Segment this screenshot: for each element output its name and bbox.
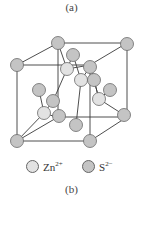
s-ion-atom xyxy=(52,37,65,50)
s-ion-atom xyxy=(88,74,101,87)
s-ion-atom xyxy=(11,135,24,148)
s-ion-atom xyxy=(70,119,83,132)
zn-ion-atom xyxy=(93,93,106,106)
s-ion-atom xyxy=(33,84,46,97)
zn-ion-swatch-icon xyxy=(26,160,39,173)
legend: Zn2+ S2− xyxy=(0,160,143,178)
caption-b: (b) xyxy=(0,183,143,195)
zn-ion-atom xyxy=(61,63,74,76)
s-ion-atom xyxy=(47,95,60,108)
atoms xyxy=(11,37,134,148)
s-ion-swatch-icon xyxy=(82,160,95,173)
s-ion-atom xyxy=(104,84,117,97)
s-ion-atom xyxy=(84,61,97,74)
zn-ion-atom xyxy=(75,74,88,87)
zn-ion-atom xyxy=(38,107,51,120)
legend-item-zn: Zn2+ xyxy=(26,160,63,173)
legend-label-s: S2− xyxy=(99,160,113,173)
s-ion-atom xyxy=(67,49,80,62)
s-ion-atom xyxy=(121,38,134,51)
s-ion-atom xyxy=(11,59,24,72)
legend-label-zn: Zn2+ xyxy=(43,160,63,173)
s-ion-atom xyxy=(53,110,66,123)
s-ion-atom xyxy=(84,135,97,148)
s-ion-atom xyxy=(118,109,131,122)
legend-item-s: S2− xyxy=(82,160,113,173)
